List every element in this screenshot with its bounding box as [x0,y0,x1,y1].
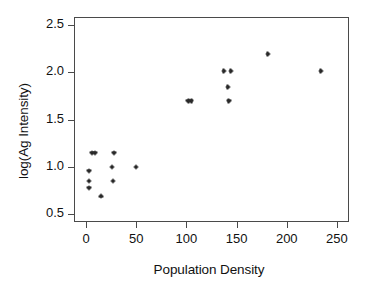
x-tick-mark [337,222,338,228]
data-point [226,86,229,89]
data-point [135,166,138,169]
data-point [88,180,91,183]
y-tick-mark [68,25,74,26]
x-tick-label: 200 [264,231,310,246]
data-point [112,180,115,183]
data-point [113,151,116,154]
x-axis-label: Population Density [81,262,337,277]
y-tick-mark [68,214,74,215]
plot-frame [74,17,349,222]
data-point [111,166,114,169]
x-tick-label: 100 [163,231,209,246]
y-tick-label: 1.5 [26,111,64,126]
data-point [222,70,225,73]
data-point [190,99,193,102]
plot-area [75,18,348,221]
data-point [88,186,91,189]
x-tick-label: 50 [113,231,159,246]
y-tick-mark [68,167,74,168]
y-tick-mark [68,120,74,121]
y-tick-label: 2.5 [26,16,64,31]
data-point [319,70,322,73]
y-tick-mark [68,72,74,73]
data-point [229,70,232,73]
data-point [266,53,269,56]
x-tick-label: 250 [314,231,360,246]
data-point [227,99,230,102]
x-tick-label: 150 [214,231,260,246]
y-tick-label: 0.5 [26,205,64,220]
data-point [100,195,103,198]
x-tick-mark [186,222,187,228]
y-tick-label: 1.0 [26,158,64,173]
x-tick-mark [237,222,238,228]
data-point [88,169,91,172]
x-tick-mark [86,222,87,228]
y-tick-label: 2.0 [26,63,64,78]
x-tick-label: 0 [63,231,109,246]
data-point [94,151,97,154]
x-tick-mark [136,222,137,228]
scatter-plot-figure: log(Ag Intensity) 050100150200250 0.51.0… [0,0,367,300]
x-tick-mark [287,222,288,228]
